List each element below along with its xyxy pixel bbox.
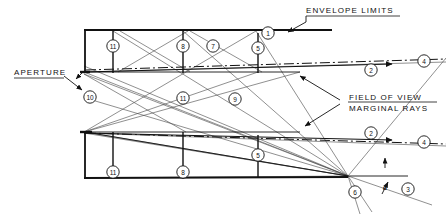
ray-down-to-lower-aperture-a [84,72,300,132]
callout-5-top[interactable]: 5 [252,42,264,54]
callout-9[interactable]: 9 [229,93,241,105]
ray-from-5top-to-vertex [256,31,348,176]
callout-11-top[interactable]: 11 [107,40,119,52]
callout-8-top[interactable]: 8 [177,40,189,52]
callout-6[interactable]: 6 [349,186,361,198]
callout-11-bottom[interactable]: 11 [107,166,119,178]
leader-aperture [76,73,82,79]
ray-cross-up-a [118,31,188,72]
callout-11-mid[interactable]: 11 [177,92,189,104]
callout-3-label: 3 [406,186,410,193]
ray-diagram-svg: ENVELOPE LIMITS APERTURE FIELD OF VIEW M… [0,0,446,219]
diagram-canvas: ENVELOPE LIMITS APERTURE FIELD OF VIEW M… [0,0,446,219]
callout-4-bottom-label: 4 [422,139,426,146]
callout-5-bottom-label: 5 [256,152,260,159]
ray-lines [84,31,446,214]
label-aperture: APERTURE [14,68,66,77]
callout-8-bottom[interactable]: 8 [177,166,189,178]
label-envelope-limits: ENVELOPE LIMITS [306,6,394,15]
label-underlines [14,16,437,102]
label-alpha-angle: a [383,183,387,192]
callout-5-bottom[interactable]: 5 [252,149,264,161]
callout-2-bottom-label: 2 [369,130,373,137]
callout-11-mid-label: 11 [180,95,187,102]
callout-2-bottom[interactable]: 2 [365,127,377,139]
leader-aperture-stem [64,76,82,90]
callout-5-top-label: 5 [256,45,260,52]
callout-8-top-label: 8 [181,43,185,50]
envelope-bottom-baseline [84,177,348,178]
ray-vertex-to-upper-right [348,58,446,176]
callout-8-bottom-label: 8 [181,169,185,176]
callout-11-bottom-label: 11 [110,169,117,176]
callout-9-label: 9 [233,96,237,103]
ray-central-a [84,74,348,176]
callout-2-top[interactable]: 2 [365,64,377,76]
callout-10-label: 10 [86,94,94,101]
callout-10[interactable]: 10 [84,91,96,103]
ray-from-8top-to-vertex [183,31,348,176]
callout-7-label: 7 [211,43,215,50]
callout-7[interactable]: 7 [207,40,219,52]
label-field-of-view: FIELD OF VIEW [349,93,422,102]
callout-4-top[interactable]: 4 [418,55,430,67]
callout-11-top-label: 11 [110,43,117,50]
callout-2-top-label: 2 [369,67,373,74]
leader-field-of-view-lower [305,104,340,126]
callout-4-bottom[interactable]: 4 [418,136,430,148]
callout-4-top-label: 4 [422,58,426,65]
callout-1-label: 1 [266,30,270,37]
callout-3[interactable]: 3 [402,183,414,195]
label-marginal-rays: MARGINAL RAYS [349,104,428,113]
leader-field-of-view-upper [300,76,340,100]
callout-6-label: 6 [353,189,357,196]
callout-1[interactable]: 1 [262,27,274,39]
